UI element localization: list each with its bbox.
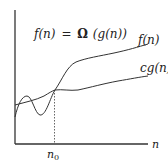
f-n-label: f(n) xyxy=(137,33,160,47)
n0-label: n0 xyxy=(47,148,59,162)
omega-diagram: f(n) = Ω (g(n)) f(n) cg(n) n n0 xyxy=(0,0,168,165)
formula-text: f(n) = Ω (g(n)) xyxy=(33,27,127,41)
x-axis-label: n xyxy=(152,138,159,151)
cg-n-label: cg(n) xyxy=(140,61,168,75)
f-n-curve xyxy=(15,44,148,117)
cg-n-curve xyxy=(15,76,148,105)
